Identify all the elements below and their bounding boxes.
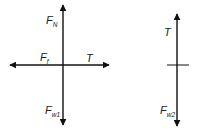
tension-force-2-label: T (164, 26, 172, 38)
tension-force-1-label: T (86, 52, 94, 64)
force-diagrams: FN Ff T Fw1 T Fw2 (0, 0, 198, 131)
normal-force-label: FN (46, 14, 58, 28)
weight-force-1-label: Fw1 (45, 104, 60, 118)
friction-force-label: Ff (40, 51, 50, 65)
weight-force-2-label: Fw2 (160, 104, 175, 118)
free-body-diagram-2: T Fw2 (160, 14, 189, 126)
free-body-diagram-1: FN Ff T Fw1 (10, 5, 109, 125)
